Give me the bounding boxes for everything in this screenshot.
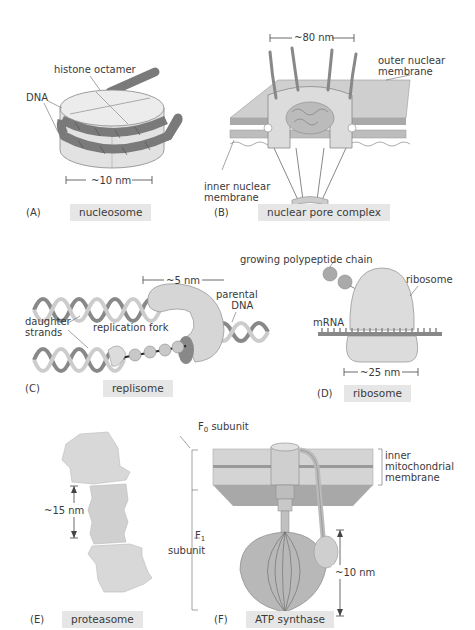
panel-letter: (A)	[26, 207, 41, 218]
scale-label: ~10 nm	[335, 567, 375, 578]
label-daughter-strands: daughter strands	[25, 316, 71, 338]
panel-letter: (D)	[317, 388, 333, 399]
label-f1-subunit: F1 subunit	[168, 530, 205, 556]
panel-letter: (B)	[214, 207, 229, 218]
panel-caption: nuclear pore complex	[258, 204, 390, 221]
panel-caption: replisome	[103, 380, 173, 397]
panel-caption: proteasome	[62, 611, 143, 628]
scale-label: ~5 nm	[166, 275, 200, 286]
panel-d-ribosome: growing polypeptide chain ribosome mRNA …	[290, 250, 475, 420]
panel-caption: ATP synthase	[246, 611, 334, 628]
panel-c-replisome: ~5 nm parental DNA daughter strands repl…	[0, 250, 290, 420]
label-line: outer nuclear	[378, 55, 445, 66]
label-line: mitochondrial	[385, 461, 454, 472]
label-line: parental	[216, 289, 258, 300]
panel-a-nucleosome: histone octamer DNA ~10 nm (A) nucleosom…	[0, 0, 230, 225]
scale-label: ~15 nm	[44, 505, 84, 516]
panel-letter: (F)	[214, 614, 228, 625]
label-line: strands	[25, 327, 62, 338]
label-histone-octamer: histone octamer	[54, 64, 136, 75]
label-f0-subunit: F0 subunit	[198, 421, 249, 436]
label-line: inner	[385, 450, 411, 461]
label-line: membrane	[204, 192, 259, 203]
label-line: membrane	[378, 66, 433, 77]
panel-caption: nucleosome	[70, 204, 151, 221]
nucleosome-illustration	[0, 0, 230, 225]
panel-f-atp-synthase: F0 subunit inner mitochondrial membrane …	[180, 420, 475, 630]
label-parental-dna: parental DNA	[216, 289, 258, 311]
label-growing-polypeptide-chain: growing polypeptide chain	[240, 254, 373, 265]
label-subunit: subunit	[208, 421, 248, 432]
label-line: daughter	[25, 316, 71, 327]
panel-e-proteasome: ~15 nm (E) proteasome	[0, 430, 190, 630]
panel-letter: (C)	[25, 383, 40, 394]
label-line: membrane	[385, 472, 440, 483]
label-ribosome: ribosome	[406, 274, 453, 285]
panel-letter: (E)	[30, 614, 44, 625]
panel-b-nuclear-pore-complex: ~80 nm outer nuclear membrane inner nucl…	[200, 0, 475, 225]
label-dna: DNA	[26, 92, 48, 103]
label-mrna: mRNA	[313, 317, 344, 328]
scale-label: ~80 nm	[294, 32, 334, 43]
label-subscript: 1	[201, 535, 205, 543]
label-subunit: subunit	[168, 545, 205, 556]
label-inner-nuclear-membrane: inner nuclear membrane	[204, 181, 270, 203]
label-outer-nuclear-membrane: outer nuclear membrane	[378, 55, 445, 77]
label-inner-mitochondrial-membrane: inner mitochondrial membrane	[385, 450, 454, 483]
label-line: DNA	[220, 300, 253, 311]
label-line: inner nuclear	[204, 181, 270, 192]
proteasome-illustration	[0, 430, 190, 630]
scale-label: ~10 nm	[91, 175, 131, 186]
panel-caption: ribosome	[344, 385, 411, 402]
scale-label: ~25 nm	[360, 367, 400, 378]
label-replication-fork: replication fork	[93, 322, 168, 333]
